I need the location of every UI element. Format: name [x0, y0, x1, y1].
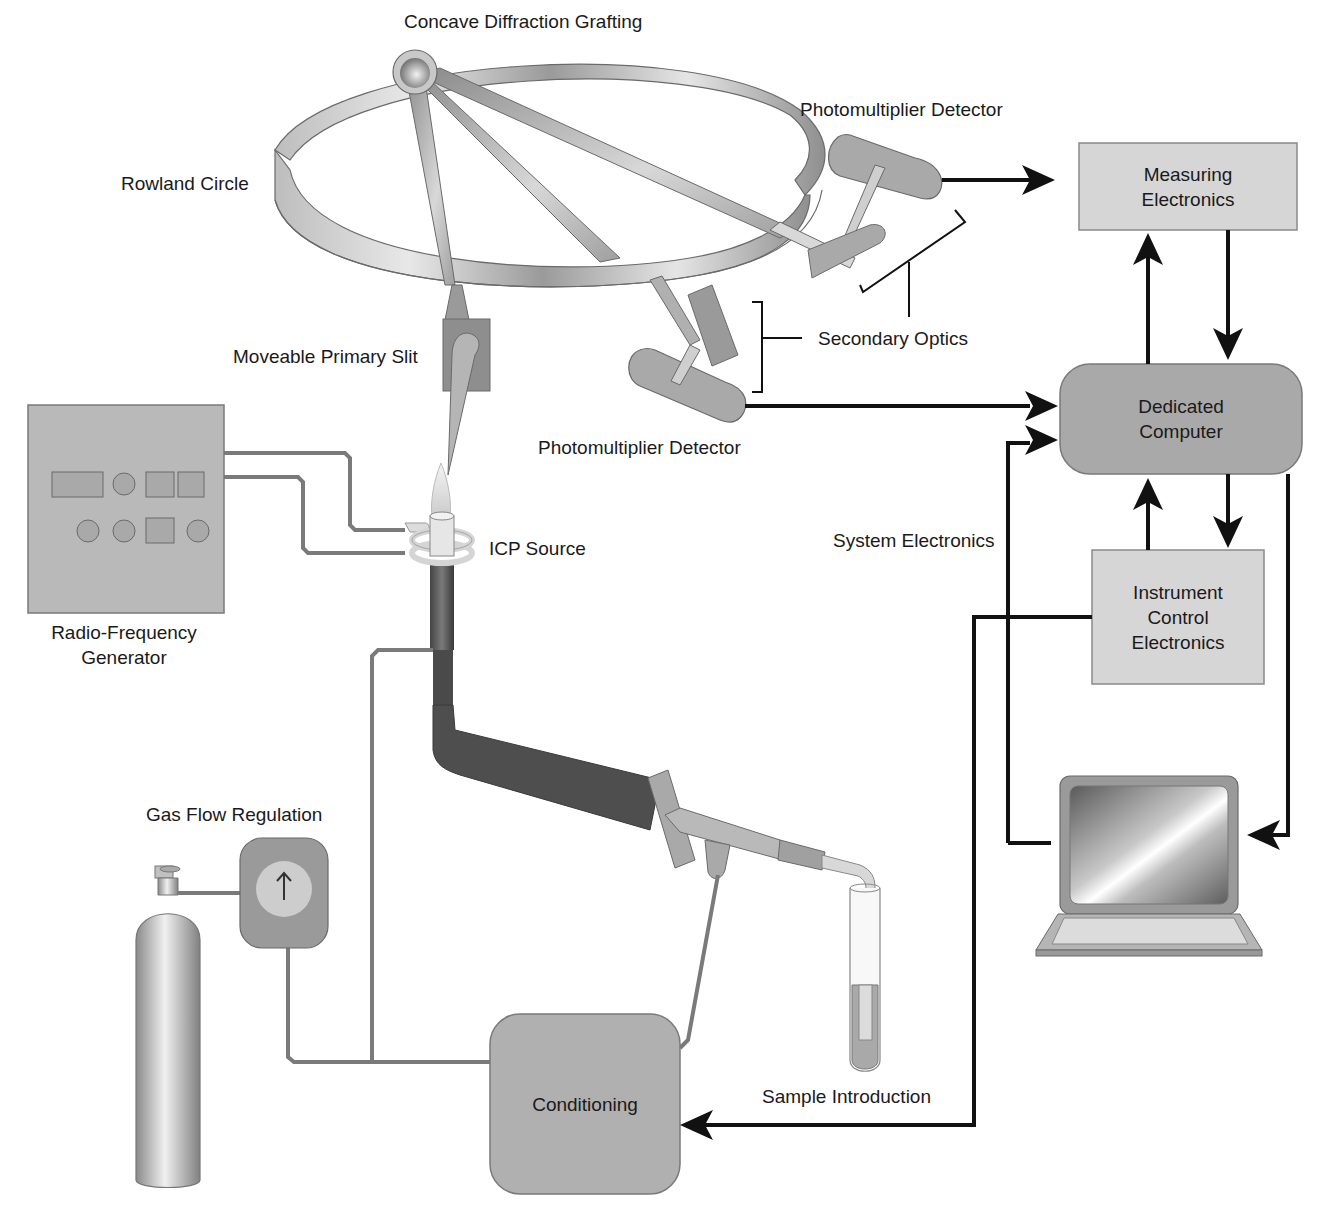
photomultiplier-detector-top [808, 135, 942, 278]
instrument-control-text: Instrument Control Electronics [1092, 550, 1264, 684]
label-moveable-primary-slit: Moveable Primary Slit [233, 345, 418, 370]
label-gas-flow-regulation: Gas Flow Regulation [146, 803, 322, 828]
conditioning-line-1: Conditioning [532, 1092, 638, 1117]
instrument-line-2: Control [1147, 605, 1208, 630]
instrument-line-1: Instrument [1133, 580, 1223, 605]
label-photomultiplier-detector-bottom: Photomultiplier Detector [538, 436, 741, 461]
measuring-line-2: Electronics [1142, 187, 1235, 212]
photomultiplier-detector-bottom [629, 276, 746, 422]
light-paths [405, 68, 855, 285]
laptop [1036, 776, 1262, 956]
label-rowland-circle: Rowland Circle [121, 172, 249, 197]
sample-tube [850, 884, 880, 1071]
gas-flow-regulator [240, 838, 328, 948]
rowland-circle [275, 64, 825, 287]
measuring-line-1: Measuring [1144, 162, 1233, 187]
measuring-electronics-text: Measuring Electronics [1079, 143, 1297, 230]
moveable-primary-slit [443, 285, 490, 475]
label-rf-generator-line2: Generator [38, 646, 210, 671]
label-rf-generator: Radio-Frequency Generator [38, 621, 210, 670]
conditioning-text: Conditioning [490, 1014, 680, 1194]
label-sample-introduction: Sample Introduction [762, 1085, 931, 1110]
arrow-to-dedicated-computer-2 [1025, 425, 1058, 455]
dedicated-line-1: Dedicated [1138, 394, 1224, 419]
label-rf-generator-line1: Radio-Frequency [38, 621, 210, 646]
label-secondary-optics: Secondary Optics [818, 327, 968, 352]
concave-grating [393, 50, 437, 94]
gas-cylinder [136, 866, 200, 1188]
dedicated-line-2: Computer [1139, 419, 1222, 444]
icp-torch [405, 463, 472, 705]
instrument-line-3: Electronics [1132, 630, 1225, 655]
spray-chamber [433, 705, 875, 1040]
label-concave-diffraction-grating: Concave Diffraction Grafting [404, 10, 642, 35]
dedicated-computer-text: Dedicated Computer [1060, 364, 1302, 474]
radio-frequency-generator [28, 405, 224, 613]
label-photomultiplier-detector-top: Photomultiplier Detector [800, 98, 1003, 123]
label-icp-source: ICP Source [489, 537, 586, 562]
label-system-electronics: System Electronics [833, 529, 995, 554]
rf-leads [224, 453, 405, 553]
